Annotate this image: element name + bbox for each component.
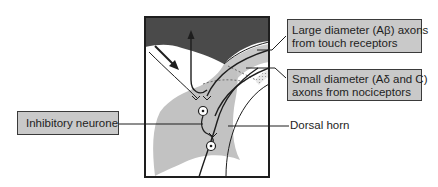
label-large-line1: Large diameter (Aβ) axons — [292, 24, 417, 37]
label-large-line2: from touch receptors — [292, 37, 417, 50]
label-inhibitory-text: Inhibitory neurone — [26, 117, 114, 130]
label-small-line1: Small diameter (Aδ and C) — [292, 73, 417, 86]
spinal-cord-gate-diagram: Large diameter (Aβ) axons from touch rec… — [0, 0, 438, 187]
label-dorsal-horn: Dorsal horn — [290, 119, 349, 131]
label-small-diameter-axons: Small diameter (Aδ and C) axons from noc… — [287, 69, 422, 101]
label-inhibitory-neurone: Inhibitory neurone — [17, 111, 119, 135]
nucleus-dot — [202, 110, 205, 113]
label-small-line2: axons from nociceptors — [292, 86, 417, 99]
label-large-diameter-axons: Large diameter (Aβ) axons from touch rec… — [287, 19, 422, 53]
nucleus-dot — [210, 145, 213, 148]
